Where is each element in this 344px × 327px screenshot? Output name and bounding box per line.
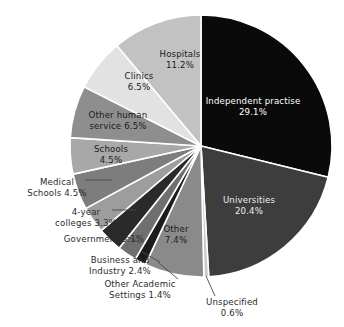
- slice-label-line1: Other Academic: [104, 279, 175, 289]
- slice-label-line2: 7.4%: [165, 235, 187, 245]
- slice-label-line2: Schools 4.5%: [27, 188, 86, 198]
- slice-label: Other7.4%: [163, 224, 188, 245]
- slice-label-line1: Other: [163, 224, 188, 234]
- slice-label: Government 3.1%: [64, 234, 144, 244]
- slice-label-line1: Unspecified: [206, 297, 258, 307]
- slice-label-line2: 0.6%: [221, 308, 243, 318]
- slice-label-line1: Business and: [91, 255, 150, 265]
- slice-label-line1: Universities: [223, 195, 276, 205]
- slice-label: Other humanservice 6.5%: [89, 110, 148, 131]
- unspecified-leader: [206, 276, 215, 296]
- slice-label-line2: colleges 3.3%: [55, 218, 117, 228]
- slice-label-line1: Other human: [89, 110, 148, 120]
- slice-label-line2: service 6.5%: [89, 121, 146, 131]
- slice-label-line2: 6.5%: [128, 82, 150, 92]
- slice-label-line1: Medical: [40, 177, 74, 187]
- slice-label: Other AcademicSettings 1.4%: [104, 279, 175, 300]
- slice-label-line1: Schools: [94, 144, 128, 154]
- slice-label: Business andIndustry 2.4%: [89, 255, 151, 276]
- slice-label-line2: 20.4%: [235, 206, 263, 216]
- slice-label-line2: Industry 2.4%: [89, 266, 151, 276]
- slice-label-line1: Government 3.1%: [64, 234, 144, 244]
- slice-label-line2: Settings 1.4%: [109, 290, 171, 300]
- slice-label: Clinics6.5%: [125, 71, 154, 92]
- slice-label-line2: 4.5%: [100, 155, 122, 165]
- slice-label-line1: 4-year: [72, 207, 101, 217]
- slice-label-line2: 29.1%: [239, 107, 267, 117]
- pie-chart: Independent practise29.1%Universities20.…: [0, 0, 344, 327]
- slice-label-line2: 11.2%: [166, 60, 194, 70]
- slice-label-line1: Hospitals: [160, 49, 201, 59]
- pie-chart-canvas: Independent practise29.1%Universities20.…: [0, 0, 344, 327]
- slice-label-line1: Independent practise: [206, 96, 301, 106]
- slice-label-line1: Clinics: [125, 71, 154, 81]
- slice-label: Unspecified0.6%: [206, 297, 258, 318]
